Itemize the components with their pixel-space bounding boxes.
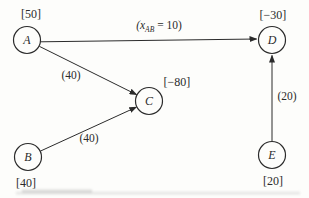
graph-diagram-canvas: (xAB = 10) (40) (40) (20) A [50] B [40] …: [0, 0, 309, 198]
node-c-letter: C: [145, 94, 154, 108]
edge-b-to-c: [40, 107, 136, 151]
node-e: E [20]: [259, 142, 286, 189]
node-c-value: [−80]: [164, 75, 191, 89]
edge-label-b-c: (40): [79, 132, 98, 145]
node-b: B [40]: [15, 144, 42, 191]
cropped-caption-smear: [16, 190, 300, 195]
edge-label-e-d: (20): [277, 90, 296, 103]
node-d: D [−30]: [259, 8, 287, 54]
edge-label-a-d: (xAB = 10): [136, 19, 182, 34]
network-graph: (xAB = 10) (40) (40) (20) A [50] B [40] …: [0, 0, 309, 198]
edge-label-a-c: (40): [61, 69, 80, 82]
node-c: C [−80]: [136, 75, 191, 115]
node-a-letter: A: [22, 33, 31, 47]
node-e-letter: E: [267, 148, 276, 162]
edge-a-to-c: [39, 46, 136, 94]
node-b-value: [40]: [16, 176, 36, 190]
node-b-letter: B: [24, 150, 32, 164]
node-d-letter: D: [267, 33, 277, 47]
node-a-value: [50]: [21, 7, 41, 21]
node-e-value: [20]: [263, 174, 283, 188]
edge-a-to-d: [41, 39, 257, 42]
node-a: A [50]: [14, 7, 42, 54]
node-d-value: [−30]: [260, 8, 287, 22]
